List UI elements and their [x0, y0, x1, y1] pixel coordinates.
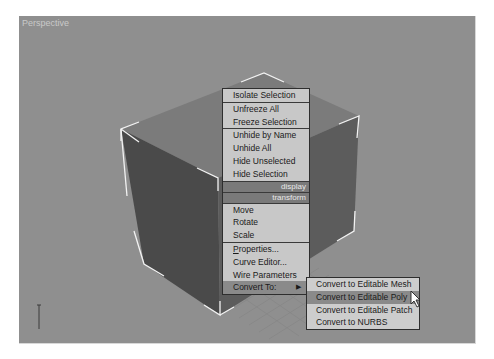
- menu-item-curve-editor[interactable]: Curve Editor...: [223, 256, 309, 269]
- menu-item-unhide-by-name[interactable]: Unhide by Name: [223, 129, 309, 142]
- submenu-item-nurbs[interactable]: Convert to NURBS: [307, 316, 419, 329]
- menu-item-unhide-all[interactable]: Unhide All: [223, 142, 309, 155]
- menu-item-unfreeze-all[interactable]: Unfreeze All: [223, 103, 309, 116]
- submenu-item-editable-mesh[interactable]: Convert to Editable Mesh: [307, 278, 419, 291]
- quad-menu: Isolate Selection Unfreeze All Freeze Se…: [222, 88, 310, 295]
- quad-header-display[interactable]: display: [223, 181, 309, 193]
- mouse-cursor-icon: [410, 290, 422, 308]
- menu-item-hide-selection[interactable]: Hide Selection: [223, 168, 309, 181]
- menu-item-isolate-selection[interactable]: Isolate Selection: [223, 89, 309, 102]
- axis-tripod-icon: [36, 303, 42, 331]
- menu-item-label: roperties...: [239, 244, 279, 254]
- menu-item-label: Convert To:: [233, 282, 276, 292]
- menu-item-freeze-selection[interactable]: Freeze Selection: [223, 116, 309, 129]
- menu-item-move[interactable]: Move: [223, 204, 309, 217]
- submenu-item-editable-patch[interactable]: Convert to Editable Patch: [307, 304, 419, 317]
- menu-item-convert-to[interactable]: Convert To: ▶: [223, 281, 309, 294]
- menu-item-properties[interactable]: Properties...: [223, 243, 309, 256]
- convert-to-submenu: Convert to Editable Mesh Convert to Edit…: [306, 277, 420, 330]
- menu-item-rotate[interactable]: Rotate: [223, 216, 309, 229]
- menu-item-hide-unselected[interactable]: Hide Unselected: [223, 155, 309, 168]
- menu-item-scale[interactable]: Scale: [223, 229, 309, 242]
- submenu-arrow-icon: ▶: [296, 281, 301, 294]
- quad-header-transform[interactable]: transform: [223, 193, 309, 204]
- submenu-item-editable-poly[interactable]: Convert to Editable Poly: [307, 291, 419, 304]
- menu-item-wire-parameters[interactable]: Wire Parameters: [223, 269, 309, 282]
